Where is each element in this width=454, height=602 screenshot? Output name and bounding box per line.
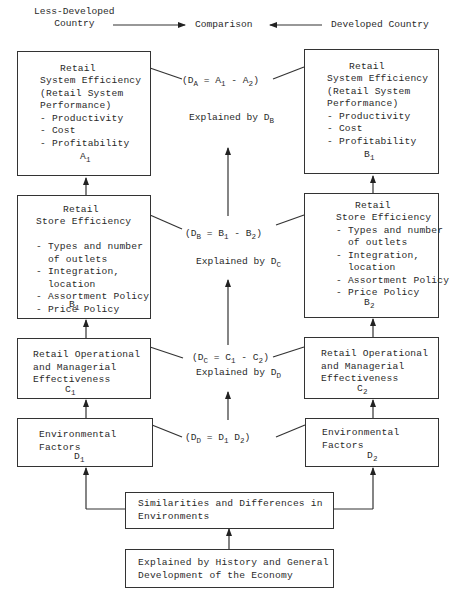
box-d1-environmental-factors: Environmental Factors D1 [17, 418, 153, 467]
formula-db: (DB = B1 - B2) [185, 228, 262, 240]
formula-dc: (DC = C1 - C2) [192, 352, 269, 364]
box-body: Store Efficiency - Types and number of o… [36, 216, 149, 316]
box-b1-retail-store-efficiency: Retail Store Efficiency - Types and numb… [17, 195, 151, 319]
explained-by-dc: Explained by DC [196, 256, 281, 268]
box-title: Retail [63, 204, 99, 217]
box-history-economy: Explained by History and General Develop… [125, 549, 334, 588]
box-symbol: A1 [80, 151, 91, 164]
box-body: Store Efficiency - Types and number of o… [336, 212, 449, 300]
box-title: Retail [60, 63, 96, 76]
header-less-developed-country: Less-Developed Country [34, 6, 115, 30]
box-body: Explained by History and General Develop… [138, 557, 329, 582]
header-developed-country: Developed Country [331, 19, 429, 31]
box-body: Environmental Factors [322, 427, 399, 452]
box-c2-operational-effectiveness-developed: Retail Operational and Managerial Effect… [304, 337, 439, 399]
box-body: Similarities and Differences in Environm… [138, 498, 323, 523]
box-body: Retail Operational and Managerial Effect… [33, 349, 140, 387]
box-a1-retail-system-efficiency: Retail System Efficiency (Retail System … [17, 51, 151, 176]
box-symbol: B2 [364, 297, 375, 310]
box-b2-retail-store-efficiency-developed: Retail Store Efficiency - Types and numb… [304, 193, 439, 318]
box-body: System Efficiency (Retail System Perform… [40, 75, 141, 150]
box-symbol: D2 [367, 450, 378, 463]
box-symbol: C2 [357, 383, 368, 396]
header-comparison: Comparison [195, 19, 253, 31]
box-title: Retail [349, 61, 385, 74]
formula-dd: (DD = D1 D2) [185, 432, 250, 444]
explained-by-dd: Explained by DD [196, 367, 281, 379]
box-symbol: C1 [65, 384, 76, 397]
box-title: Retail [355, 200, 391, 213]
box-c1-operational-effectiveness: Retail Operational and Managerial Effect… [17, 338, 151, 399]
explained-by-db: Explained by DB [189, 112, 274, 124]
box-body: System Efficiency (Retail System Perform… [327, 73, 428, 148]
box-symbol: B1 [69, 299, 80, 312]
formula-da: (DA = A1 - A2) [182, 75, 259, 87]
box-symbol: D1 [74, 451, 85, 464]
box-d2-environmental-factors-developed: Environmental Factors D2 [305, 418, 439, 467]
box-similarities-differences: Similarities and Differences in Environm… [125, 492, 334, 529]
box-symbol: B1 [364, 149, 375, 162]
box-b1-retail-system-efficiency-developed: Retail System Efficiency (Retail System … [304, 49, 439, 174]
box-body: Retail Operational and Managerial Effect… [321, 348, 428, 386]
